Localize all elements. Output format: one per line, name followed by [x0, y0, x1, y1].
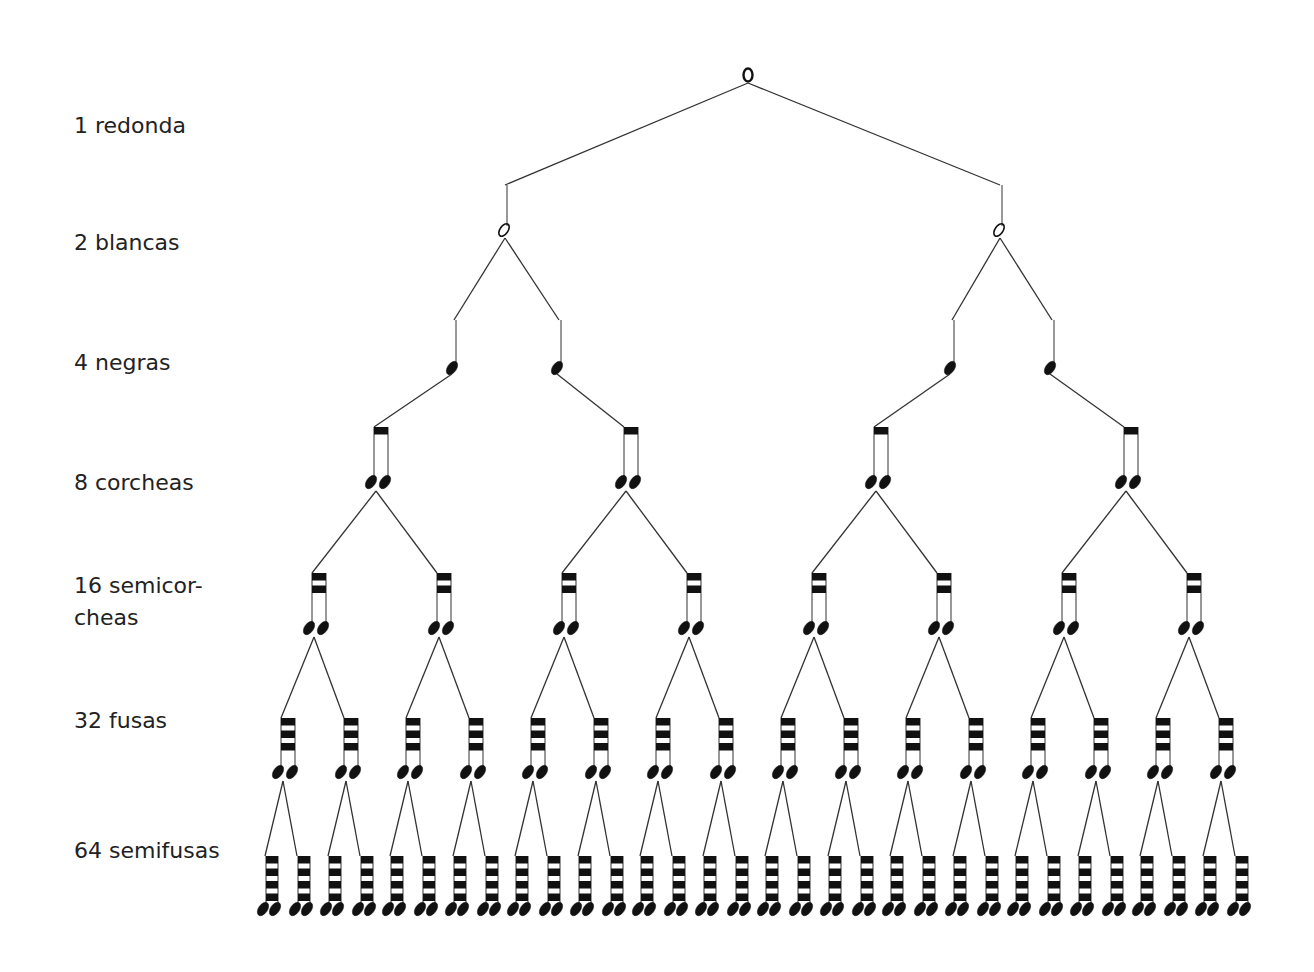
beam — [704, 894, 716, 902]
filled-notehead-icon — [426, 619, 442, 636]
beam — [1016, 856, 1028, 864]
beam — [1079, 881, 1091, 889]
beam — [391, 894, 403, 902]
beam — [611, 881, 623, 889]
beam — [986, 856, 998, 864]
filled-notehead-icon — [1083, 763, 1099, 780]
beam — [486, 856, 498, 864]
filled-notehead-icon — [270, 763, 286, 780]
beam — [1016, 869, 1028, 877]
beam — [861, 881, 873, 889]
connector-line — [1078, 781, 1096, 856]
filled-notehead-icon — [362, 900, 378, 917]
beam — [766, 894, 778, 902]
beam — [486, 894, 498, 902]
filled-notehead-icon — [1159, 763, 1175, 780]
beam — [312, 573, 326, 581]
filled-notehead-icon — [284, 763, 300, 780]
beam — [454, 869, 466, 877]
filled-notehead-icon — [1068, 900, 1084, 917]
beam — [906, 718, 920, 726]
filled-notehead-icon — [299, 900, 315, 917]
beam — [1236, 881, 1248, 889]
connector-line — [328, 781, 346, 856]
beam — [1204, 869, 1216, 877]
filled-notehead-icon — [1208, 763, 1224, 780]
beam — [1187, 573, 1201, 581]
filled-notehead-icon — [1176, 619, 1192, 636]
filled-notehead-icon — [392, 900, 408, 917]
beam — [423, 894, 435, 902]
connector-line — [658, 781, 672, 856]
whole-note-icon — [744, 69, 753, 82]
beam — [656, 718, 670, 726]
connector-line — [1031, 637, 1064, 718]
beam — [1031, 731, 1045, 739]
beam — [766, 856, 778, 864]
hollow-notehead-icon — [497, 222, 512, 238]
connector-line — [439, 637, 469, 718]
beam — [641, 881, 653, 889]
connector-line — [703, 781, 721, 856]
filled-notehead-icon — [487, 900, 503, 917]
filled-notehead-icon — [330, 900, 346, 917]
beam — [406, 743, 420, 751]
filled-notehead-icon — [924, 900, 940, 917]
filled-notehead-icon — [534, 763, 550, 780]
connector-line — [533, 781, 547, 856]
filled-notehead-icon — [833, 763, 849, 780]
filled-notehead-icon — [1174, 900, 1190, 917]
filled-notehead-icon — [350, 900, 366, 917]
beam — [516, 869, 528, 877]
beam — [361, 894, 373, 902]
filled-notehead-icon — [613, 473, 629, 490]
connector-line — [408, 781, 422, 856]
connector-line — [939, 637, 969, 718]
beam — [1204, 894, 1216, 902]
filled-notehead-icon — [1225, 900, 1241, 917]
beam — [1048, 856, 1060, 864]
beam — [344, 743, 358, 751]
filled-notehead-icon — [333, 763, 349, 780]
beam — [562, 573, 576, 581]
connector-line — [1064, 637, 1094, 718]
hollow-notehead-icon — [992, 222, 1007, 238]
beam — [548, 869, 560, 877]
beam — [656, 731, 670, 739]
beam — [1048, 881, 1060, 889]
connector-line — [1221, 781, 1235, 856]
connector-line — [828, 781, 846, 856]
filled-notehead-icon — [630, 900, 646, 917]
filled-notehead-icon — [1193, 900, 1209, 917]
filled-notehead-icon — [708, 763, 724, 780]
connector-line — [265, 781, 283, 856]
beam — [1236, 856, 1248, 864]
beam — [1016, 894, 1028, 902]
beam — [687, 586, 701, 594]
connector-line — [1033, 781, 1047, 856]
filled-notehead-icon — [475, 900, 491, 917]
filled-notehead-icon — [267, 900, 283, 917]
beam — [969, 731, 983, 739]
beam — [344, 731, 358, 739]
filled-notehead-icon — [770, 763, 786, 780]
beam — [298, 881, 310, 889]
connector-line — [748, 83, 1000, 185]
beam — [1111, 881, 1123, 889]
beam — [1079, 894, 1091, 902]
beam — [844, 743, 858, 751]
filled-notehead-icon — [722, 763, 738, 780]
beam — [1141, 881, 1153, 889]
beam — [937, 573, 951, 581]
connector-line — [312, 491, 376, 573]
filled-notehead-icon — [549, 900, 565, 917]
filled-notehead-icon — [955, 900, 971, 917]
filled-notehead-icon — [880, 900, 896, 917]
filled-notehead-icon — [1051, 619, 1067, 636]
filled-notehead-icon — [892, 900, 908, 917]
beam — [298, 894, 310, 902]
beam — [531, 718, 545, 726]
connector-line — [564, 637, 594, 718]
filled-notehead-icon — [1190, 619, 1206, 636]
connector-line — [952, 238, 1000, 320]
